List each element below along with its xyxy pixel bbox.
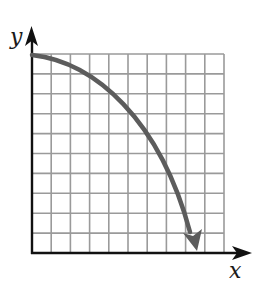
x-axis-label: x <box>229 258 242 283</box>
y-axis-label: y <box>9 24 23 49</box>
graph: y x <box>0 0 264 306</box>
grid <box>32 54 224 253</box>
